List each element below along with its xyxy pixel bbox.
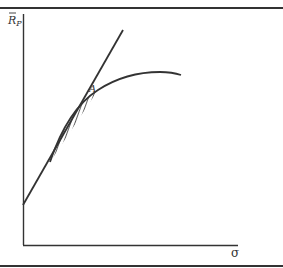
efficient-frontier-curve	[50, 72, 181, 162]
shaded-region	[50, 90, 98, 162]
x-axis-label: σ	[231, 246, 239, 260]
diagram: RP A σ	[0, 0, 283, 268]
y-axis-label: RP	[7, 14, 22, 28]
tangent-line	[23, 30, 123, 205]
point-a-label: A	[88, 83, 96, 94]
